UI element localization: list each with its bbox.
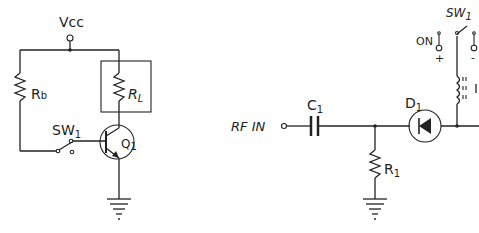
- c1-label: C1: [307, 97, 323, 115]
- rb-resistor-icon: [15, 73, 25, 101]
- c1-capacitor-icon: [311, 116, 318, 136]
- schematic-canvas: Vcc Rb RL SW1 Q1: [0, 0, 479, 233]
- vcc-terminal-icon: [67, 35, 73, 41]
- inductor-coil-icon: [457, 76, 460, 104]
- vcc-label: Vcc: [59, 14, 84, 30]
- ground-left-icon: [107, 199, 131, 219]
- on-label: ON: [416, 35, 433, 48]
- plus-sign: +: [435, 52, 444, 65]
- q1-label: Q1: [121, 137, 137, 152]
- switch-contact-icon: [70, 150, 74, 154]
- minus-terminal-icon[interactable]: [471, 45, 477, 51]
- inductor-core-icon: [463, 77, 466, 99]
- r1-resistor-icon: [370, 150, 380, 178]
- d1-label: D1: [405, 95, 422, 113]
- load-box: [101, 61, 151, 112]
- sw1-left-label: SW1: [52, 122, 81, 140]
- left-circuit: Vcc Rb RL SW1 Q1: [15, 14, 151, 219]
- plus-terminal-icon[interactable]: [436, 45, 442, 51]
- switch-contact-icon: [69, 139, 73, 143]
- rf-in-label: RF IN: [231, 119, 265, 134]
- rb-label: Rb: [31, 86, 47, 102]
- ground-right-icon: [363, 199, 387, 219]
- switch-lever-icon[interactable]: [59, 142, 72, 150]
- right-circuit: RF IN C1 R1 D1: [231, 6, 479, 219]
- rl-resistor-icon: [114, 73, 124, 101]
- minus-sign: -: [471, 51, 475, 64]
- sw1-right-label: SW1: [446, 6, 472, 22]
- rl-label: RL: [128, 86, 143, 104]
- r1-label: R1: [384, 161, 400, 179]
- rf-in-terminal-icon[interactable]: [282, 124, 287, 129]
- d1-diode-icon: [409, 110, 441, 142]
